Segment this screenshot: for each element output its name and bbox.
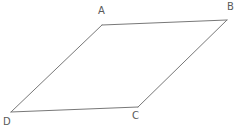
edge-da [11,25,102,112]
vertex-label-c: C [132,111,139,121]
vertex-label-b: B [227,2,234,12]
vertex-label-a: A [98,6,105,16]
parallelogram-drawing [0,0,246,134]
edge-bc [138,20,227,107]
vertex-label-d: D [3,117,11,127]
geometry-figure-canvas: A B C D [0,0,246,134]
edge-ab [102,20,227,25]
edge-cd [11,107,138,112]
